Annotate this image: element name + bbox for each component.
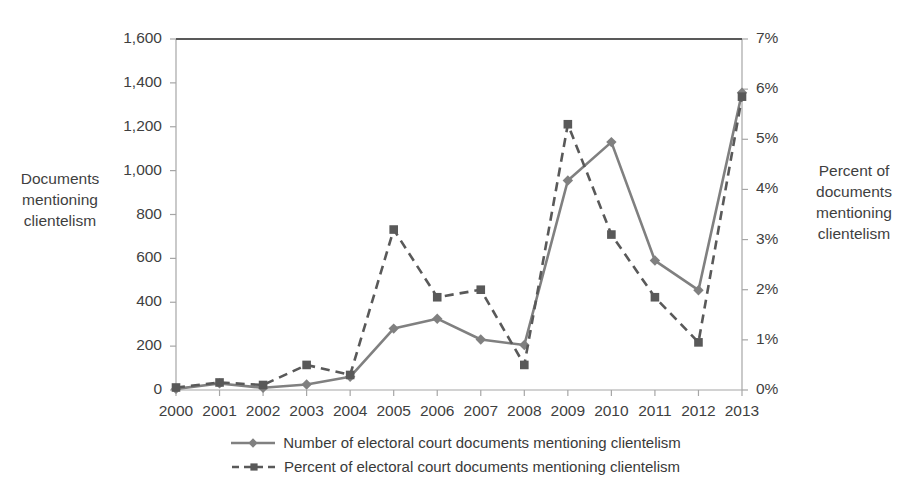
- legend-item-percent[interactable]: Percent of electoral court documents men…: [231, 458, 680, 475]
- y-left-tick-label: 1,000: [102, 161, 162, 179]
- y-right-tick-label: 4%: [756, 179, 800, 197]
- series-group: [171, 88, 747, 395]
- y-left-tick-label: 400: [102, 292, 162, 310]
- y-left-tick-label: 1,200: [102, 117, 162, 135]
- y-left-tick-label: 0: [102, 380, 162, 398]
- y-right-tick-label: 1%: [756, 330, 800, 348]
- y-right-tick-label: 3%: [756, 230, 800, 248]
- y-left-tick-label: 1,600: [102, 29, 162, 47]
- legend-swatch-dashed-square: [231, 460, 277, 474]
- x-tick-label: 2013: [716, 402, 768, 420]
- y-right-tick-label: 7%: [756, 29, 800, 47]
- axis-ticks: [170, 39, 748, 396]
- y-left-tick-label: 600: [102, 248, 162, 266]
- legend-label-number: Number of electoral court documents ment…: [283, 434, 681, 451]
- y-right-tick-label: 2%: [756, 280, 800, 298]
- y-right-tick-label: 5%: [756, 129, 800, 147]
- y-left-tick-label: 1,400: [102, 73, 162, 91]
- y-left-tick-label: 800: [102, 205, 162, 223]
- legend-swatch-solid-diamond: [230, 436, 276, 450]
- legend-label-percent: Percent of electoral court documents men…: [284, 458, 680, 475]
- y-right-tick-label: 6%: [756, 79, 800, 97]
- chart-legend: Number of electoral court documents ment…: [0, 434, 911, 475]
- legend-item-number[interactable]: Number of electoral court documents ment…: [230, 434, 681, 451]
- chart-container: Documents mentioning clientelism Percent…: [0, 0, 911, 483]
- y-left-tick-label: 200: [102, 336, 162, 354]
- axis-frame: [176, 39, 742, 390]
- y-right-tick-label: 0%: [756, 380, 800, 398]
